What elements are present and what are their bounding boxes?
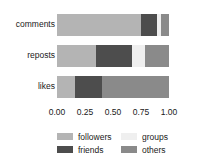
bar-segment-comments-others: [161, 14, 169, 36]
legend-item-friends[interactable]: friends: [57, 145, 121, 155]
legend-swatch-friends: [57, 146, 73, 153]
x-tick-label-0.00: 0.00: [49, 106, 66, 118]
legend-swatch-others: [121, 146, 137, 153]
category-label-likes: likes: [3, 81, 55, 91]
bar-segment-reposts-followers: [57, 45, 96, 67]
bar-segment-reposts-groups: [132, 45, 145, 67]
legend-label-followers: followers: [78, 132, 112, 142]
x-tick-label-0.25: 0.25: [77, 106, 94, 118]
bar-segment-reposts-friends: [96, 45, 132, 67]
legend-item-groups[interactable]: groups: [121, 132, 193, 142]
bar-segment-likes-followers: [57, 76, 75, 98]
legend-swatch-followers: [57, 133, 73, 140]
x-tick-label-0.75: 0.75: [133, 106, 150, 118]
legend-item-others[interactable]: others: [121, 145, 193, 155]
category-label-reposts: reposts: [3, 50, 55, 60]
legend-label-others: others: [142, 145, 166, 155]
bar-segment-reposts-others: [145, 45, 169, 67]
chart-legend: followersgroupsfriendsothers: [57, 130, 193, 158]
bar-segment-comments-friends: [141, 14, 157, 36]
bar-reposts: [57, 45, 169, 67]
bar-segment-likes-others: [102, 76, 169, 98]
stacked-bar-chart: comments reposts likes 0.000.250.500.751…: [0, 0, 200, 166]
bar-segment-likes-friends: [75, 76, 102, 98]
legend-label-groups: groups: [142, 132, 168, 142]
plot-area: [57, 12, 169, 102]
category-label-comments: comments: [3, 19, 55, 29]
bar-likes: [57, 76, 169, 98]
legend-swatch-groups: [121, 133, 137, 140]
bar-segment-comments-followers: [57, 14, 141, 36]
x-tick-label-1.00: 1.00: [161, 106, 178, 118]
x-tick-label-0.50: 0.50: [105, 106, 122, 118]
legend-label-friends: friends: [78, 145, 104, 155]
bar-comments: [57, 14, 169, 36]
value-axis: 0.000.250.500.751.00: [57, 106, 169, 120]
category-axis: comments reposts likes: [0, 0, 55, 110]
legend-item-followers[interactable]: followers: [57, 132, 121, 142]
